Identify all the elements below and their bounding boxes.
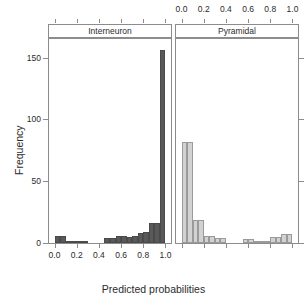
x-axis-tick [121, 244, 122, 248]
y-axis-tick-label: 150 [18, 53, 41, 63]
top-axis-tick [182, 19, 183, 23]
top-axis-tick [99, 19, 100, 23]
x-axis-tick-label: 0.2 [71, 250, 83, 260]
bars-pyramidal [176, 39, 298, 243]
top-axis-tick [121, 19, 122, 23]
x-axis-tick [270, 244, 271, 248]
top-axis-tick [77, 19, 78, 23]
top-axis-tick [204, 19, 205, 23]
top-axis-tick [143, 19, 144, 23]
x-axis-tick [99, 244, 100, 248]
histogram-bar [160, 50, 166, 243]
top-axis-tick-label: 1.0 [287, 4, 299, 14]
right-axis-tick [299, 119, 304, 120]
histogram-bar [82, 241, 88, 243]
x-axis-tick [226, 244, 227, 248]
panel-strip-label-interneuron: Interneuron [88, 27, 131, 36]
x-axis-tick-label: 1.0 [160, 250, 172, 260]
right-axis-tick [299, 58, 304, 59]
x-axis-tick-label: 0.0 [49, 250, 61, 260]
x-axis-tick-label: 0.6 [115, 250, 127, 260]
x-axis-tick [292, 244, 293, 248]
top-axis-tick-label: 0.2 [198, 4, 210, 14]
panel-strip-pyramidal: Pyramidal [175, 24, 299, 38]
plot-panel-pyramidal [175, 38, 299, 244]
x-axis-tick [55, 244, 56, 248]
top-axis-tick-label: 0.8 [264, 4, 276, 14]
y-axis-title: Frequency [13, 125, 25, 175]
top-axis-tick-label: 0.0 [176, 4, 188, 14]
top-axis-tick-label: 0.4 [220, 4, 232, 14]
plot-panel-interneuron [48, 38, 172, 244]
y-axis-tick [43, 243, 48, 244]
x-axis-tick [165, 244, 166, 248]
panel-strip-interneuron: Interneuron [48, 24, 172, 38]
y-axis-tick [43, 119, 48, 120]
y-axis-tick-label: 100 [18, 114, 41, 124]
top-axis-tick [292, 19, 293, 23]
right-axis-tick [299, 243, 304, 244]
right-axis-tick [299, 181, 304, 182]
top-axis-tick [55, 19, 56, 23]
histogram-figure: 0.00.20.40.60.81.0 Interneuron Pyramidal… [0, 0, 307, 306]
y-axis-tick [43, 181, 48, 182]
x-axis-tick-label: 0.4 [93, 250, 105, 260]
x-axis-tick [204, 244, 205, 248]
y-axis-tick-label: 50 [18, 176, 41, 186]
x-axis-tick [248, 244, 249, 248]
x-axis-tick [77, 244, 78, 248]
top-axis-tick [270, 19, 271, 23]
x-axis-title: Predicted probabilities [0, 283, 307, 295]
histogram-bar [287, 234, 293, 243]
x-axis-tick [182, 244, 183, 248]
panel-strip-label-pyramidal: Pyramidal [218, 27, 256, 36]
bars-interneuron [49, 39, 171, 243]
top-axis-tick [165, 19, 166, 23]
top-axis-tick [248, 19, 249, 23]
x-axis-tick-label: 0.8 [137, 250, 149, 260]
y-axis-tick [43, 58, 48, 59]
histogram-bar [220, 238, 226, 243]
top-axis-tick [226, 19, 227, 23]
x-axis-tick [143, 244, 144, 248]
top-axis-tick-label: 0.6 [242, 4, 254, 14]
y-axis-tick-label: 0 [18, 238, 41, 248]
